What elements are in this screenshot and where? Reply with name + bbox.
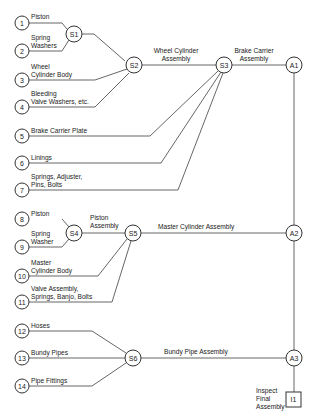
part-label: Cylinder Body xyxy=(31,267,73,275)
part-node-9: 9 Spring Washer xyxy=(15,230,54,254)
part-node-1: 1 Piston xyxy=(15,13,50,30)
svg-text:8: 8 xyxy=(20,216,24,223)
part-node-6: 6 Linings xyxy=(15,154,53,170)
part-label: Washers xyxy=(31,42,57,49)
inspection-label: Final xyxy=(256,395,271,402)
svg-text:6: 6 xyxy=(20,160,24,167)
subassembly-node-s5: S5 xyxy=(125,225,141,241)
svg-text:Piston: Piston xyxy=(90,214,109,221)
part-label: Bleeding xyxy=(31,90,57,98)
edge-label-piston-assembly: Piston Assembly xyxy=(90,214,119,230)
part-label: Brake Carrier Plate xyxy=(31,127,87,134)
svg-text:S1: S1 xyxy=(70,31,79,38)
svg-text:Assembly: Assembly xyxy=(162,55,191,63)
svg-text:4: 4 xyxy=(20,104,24,111)
svg-text:Assembly: Assembly xyxy=(240,55,269,63)
subassembly-node-s1: S1 xyxy=(66,26,82,42)
connectors xyxy=(29,23,294,392)
svg-text:Master Cylinder Assembly: Master Cylinder Assembly xyxy=(158,223,235,231)
part-node-13: 13 Bundy Pipes xyxy=(15,349,69,365)
svg-text:9: 9 xyxy=(20,244,24,251)
svg-text:7: 7 xyxy=(20,187,24,194)
svg-text:S3: S3 xyxy=(220,62,229,69)
inspection-label: Assembly xyxy=(256,403,285,411)
part-node-2: 2 Spring Washers xyxy=(15,34,57,58)
part-label: Hoses xyxy=(31,322,50,329)
part-label: Valve Assembly, xyxy=(31,285,79,293)
part-label: Pipe Fittings xyxy=(31,377,68,385)
part-label: Spring xyxy=(31,230,50,238)
svg-text:Wheel Cylinder: Wheel Cylinder xyxy=(154,47,200,55)
svg-text:S4: S4 xyxy=(70,230,79,237)
svg-text:Assembly: Assembly xyxy=(90,222,119,230)
part-label: Pins, Bolts xyxy=(31,181,63,188)
part-node-11: 11 Valve Assembly, Springs, Banjo, Bolts xyxy=(15,285,93,309)
svg-text:Brake Carrier: Brake Carrier xyxy=(234,47,274,54)
inspection-label: Inspect xyxy=(256,387,277,395)
edge-label-brake-carrier: Brake Carrier Assembly xyxy=(234,47,274,63)
svg-text:A1: A1 xyxy=(290,62,299,69)
assembly-chart: 1 Piston 2 Spring Washers 3 Wheel Cylind… xyxy=(0,0,315,417)
part-node-8: 8 Piston xyxy=(15,210,50,226)
svg-text:2: 2 xyxy=(20,48,24,55)
svg-text:S5: S5 xyxy=(129,230,138,237)
svg-text:14: 14 xyxy=(18,383,26,390)
edge-label-wheel-cylinder: Wheel Cylinder Assembly xyxy=(154,47,200,63)
svg-text:S2: S2 xyxy=(130,62,139,69)
part-label: Bundy Pipes xyxy=(31,349,69,357)
svg-text:S6: S6 xyxy=(129,355,138,362)
part-node-5: 5 Brake Carrier Plate xyxy=(15,127,87,143)
subassembly-node-s4: S4 xyxy=(66,225,82,241)
part-label: Spring xyxy=(31,34,50,42)
part-label: Master xyxy=(31,259,52,266)
part-label: Linings xyxy=(31,154,53,162)
part-node-7: 7 Springs, Adjuster, Pins, Bolts xyxy=(15,173,82,197)
svg-text:A2: A2 xyxy=(290,230,299,237)
subassembly-node-s3: S3 xyxy=(216,57,232,73)
subassembly-node-s6: S6 xyxy=(125,350,141,366)
part-label: Piston xyxy=(31,13,50,20)
svg-text:13: 13 xyxy=(18,355,26,362)
part-node-10: 10 Master Cylinder Body xyxy=(15,259,73,283)
part-label: Springs, Banjo, Bolts xyxy=(31,293,93,301)
part-label: Cylinder Body xyxy=(31,71,73,79)
part-node-3: 3 Wheel Cylinder Body xyxy=(15,63,73,87)
svg-text:1: 1 xyxy=(20,20,24,27)
edge-label-master-cylinder: Master Cylinder Assembly xyxy=(158,223,235,231)
svg-text:11: 11 xyxy=(18,299,25,306)
assembly-node-a3: A3 xyxy=(286,350,302,366)
part-node-4: 4 Bleeding Valve Washers, etc. xyxy=(15,90,89,114)
part-label: Wheel xyxy=(31,63,50,70)
assembly-node-a2: A2 xyxy=(286,225,302,241)
svg-text:12: 12 xyxy=(18,328,26,335)
svg-text:A3: A3 xyxy=(290,355,299,362)
part-node-12: 12 Hoses xyxy=(15,322,50,338)
svg-text:3: 3 xyxy=(20,77,24,84)
subassembly-node-s2: S2 xyxy=(126,57,142,73)
svg-text:10: 10 xyxy=(18,273,26,280)
edge-label-bundy-pipe: Bundy Pipe Assembly xyxy=(164,348,228,356)
part-label: Piston xyxy=(31,210,50,217)
part-label: Valve Washers, etc. xyxy=(31,98,89,105)
assembly-node-a1: A1 xyxy=(286,57,302,73)
svg-text:5: 5 xyxy=(20,133,24,140)
part-label: Springs, Adjuster, xyxy=(31,173,82,181)
part-label: Washer xyxy=(31,238,54,245)
svg-text:I1: I1 xyxy=(291,396,297,403)
svg-text:Bundy Pipe Assembly: Bundy Pipe Assembly xyxy=(164,348,228,356)
part-node-14: 14 Pipe Fittings xyxy=(15,377,68,393)
